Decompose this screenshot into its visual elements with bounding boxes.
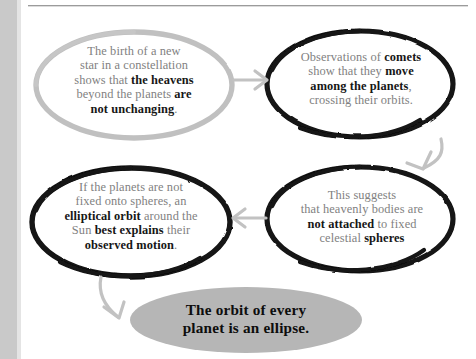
- node-comets-text: Observations of cometsshow that they mov…: [281, 50, 441, 108]
- arrow-star-to-comets: [234, 71, 267, 89]
- diagram-canvas: The birth of a newstar in a constellatio…: [0, 0, 476, 359]
- arrow-comets-to-spheres: [407, 139, 442, 169]
- node-new-star-text: The birth of a newstar in a constellatio…: [48, 44, 220, 116]
- arrow-orbit-to-conclusion: [100, 277, 124, 318]
- node-elliptical-orbit-text: If the planets are notfixed onto spheres…: [38, 180, 224, 252]
- node-conclusion-text: The orbit of everyplanet is an ellipse.: [140, 301, 352, 337]
- node-not-attached-text: This suggeststhat heavenly bodies arenot…: [283, 188, 441, 246]
- arrow-spheres-to-orbit: [233, 209, 266, 227]
